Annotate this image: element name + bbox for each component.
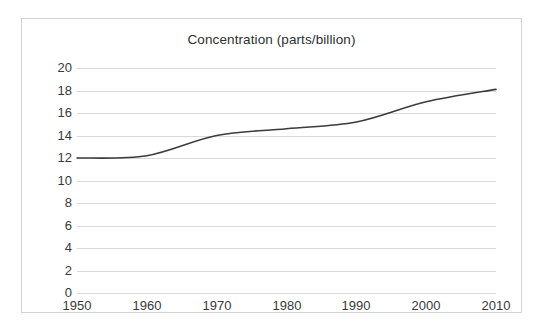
series-path — [77, 89, 496, 158]
plot-area: 20181614121086420 1950196019701980199020… — [22, 19, 521, 312]
chart-frame: Concentration (parts/billion) 2018161412… — [21, 18, 522, 313]
chart-screenshot: Concentration (parts/billion) 2018161412… — [0, 0, 543, 331]
line-series-concentration — [22, 19, 521, 312]
